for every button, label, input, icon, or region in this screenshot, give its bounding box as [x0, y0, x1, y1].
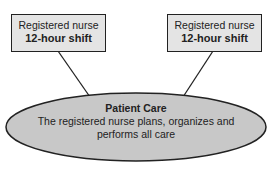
left-box-shift: 12-hour shift [12, 32, 105, 45]
connector-left [58, 51, 90, 97]
patient-care-desc-2: performs all care [20, 128, 252, 141]
patient-care-desc-1: The registered nurse plans, organizes an… [20, 115, 252, 128]
right-box-role: Registered nurse [168, 19, 261, 32]
connector-right [183, 51, 213, 97]
right-box-shift: 12-hour shift [168, 32, 261, 45]
patient-care-title: Patient Care [20, 102, 252, 115]
patient-care-label: Patient Care The registered nurse plans,… [20, 102, 252, 141]
left-nurse-box: Registered nurse 12-hour shift [11, 14, 106, 52]
right-nurse-box: Registered nurse 12-hour shift [167, 14, 262, 52]
left-box-role: Registered nurse [12, 19, 105, 32]
